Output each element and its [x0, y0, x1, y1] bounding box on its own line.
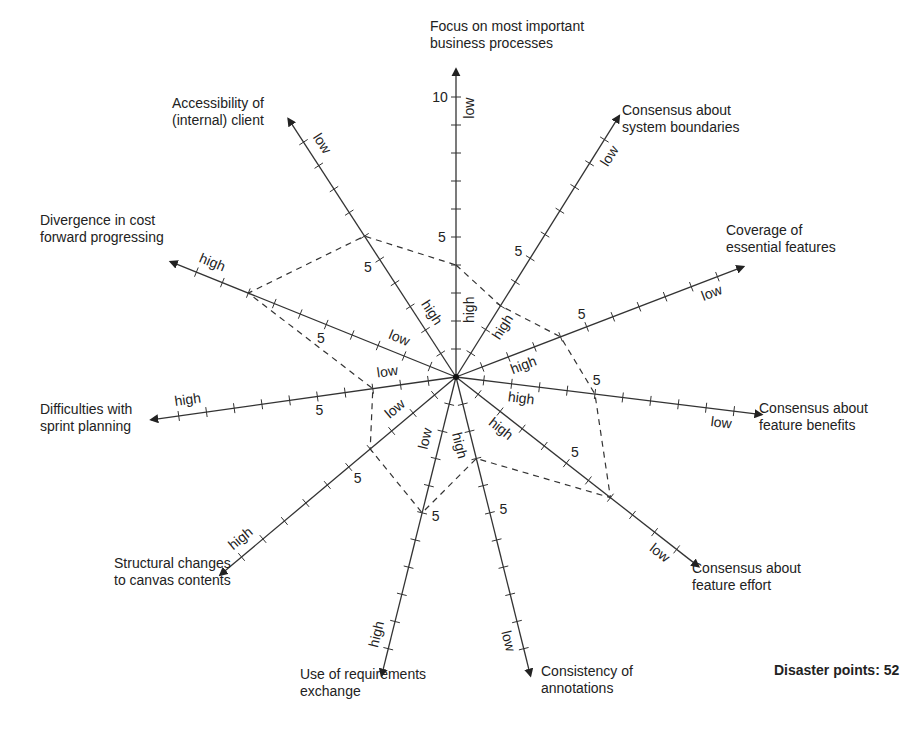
axis-label-3: Consensus about feature benefits: [759, 400, 868, 434]
axis-outer-end-label: high: [197, 250, 228, 275]
axis-inner-end-label: low: [387, 326, 413, 349]
axis-7: 5highlow: [220, 377, 456, 575]
tick-label-5: 5: [315, 402, 323, 418]
axis-inner-end-label: low: [415, 426, 436, 451]
axis-label-0: Focus on most important business process…: [430, 18, 584, 52]
radar-chart: 510lowhigh5lowhigh5lowhigh5lowhigh5lowhi…: [0, 0, 908, 736]
tick-label-5: 5: [593, 372, 601, 388]
axis-outer-end-label: low: [310, 130, 335, 157]
tick-label-5: 5: [571, 444, 579, 460]
axis-outer-end-label: low: [498, 629, 519, 654]
disaster-points-score: Disaster points: 52: [774, 662, 899, 678]
axis-4: 5lowhigh: [456, 377, 699, 567]
axis-label-10: Accessibility of (internal) client: [172, 95, 264, 129]
axis-label-7: Structural changes to canvas contents: [114, 555, 231, 589]
tick-label-5: 5: [438, 229, 446, 245]
tick-label-5: 5: [500, 501, 508, 517]
axis-outer-end-label: low: [461, 97, 477, 119]
axis-inner-end-label: high: [489, 311, 517, 342]
chart-center-dot: [453, 374, 459, 380]
tick-label-5: 5: [354, 470, 362, 486]
axis-outer-end-label: high: [365, 619, 387, 649]
axis-label-6: Use of requirements exchange: [300, 666, 426, 700]
axis-label-5: Consistency of annotations: [541, 663, 633, 697]
tick-label-10: 10: [432, 89, 448, 105]
axis-label-1: Consensus about system boundaries: [622, 102, 740, 136]
tick-label-5: 5: [364, 259, 372, 275]
axis-inner-end-label: low: [381, 395, 408, 421]
axis-inner-end-label: high: [486, 414, 517, 443]
axis-label-8: Difficulties with sprint planning: [40, 401, 132, 435]
axis-outer-end-label: low: [699, 281, 725, 304]
axis-label-4: Consensus about feature effort: [692, 560, 801, 594]
tick-label-5: 5: [317, 330, 325, 346]
axis-10: 5lowhigh: [288, 119, 456, 377]
axis-inner-end-label: high: [508, 353, 538, 377]
axis-inner-end-label: high: [418, 297, 446, 328]
axis-9: 5highlow: [170, 250, 456, 377]
axis-outer-end-label: high: [173, 389, 201, 409]
axes-layer: 510lowhigh5lowhigh5lowhigh5lowhigh5lowhi…: [151, 69, 762, 676]
axis-0: 510lowhigh: [432, 69, 476, 377]
assessment-polygon: [248, 236, 610, 513]
tick-label-5: 5: [514, 243, 522, 259]
axis-inner-end-label: high: [507, 388, 535, 407]
tick-label-5: 5: [578, 306, 586, 322]
axis-inner-end-label: high: [461, 297, 477, 323]
axis-label-2: Coverage of essential features: [726, 222, 836, 256]
axis-outer-end-label: low: [710, 413, 734, 432]
axis-inner-end-label: high: [449, 431, 471, 461]
axis-6: 5highlow: [365, 377, 456, 676]
axis-8: 5highlow: [151, 362, 456, 421]
axis-label-9: Divergence in cost forward progressing: [40, 212, 164, 246]
axis-1: 5lowhigh: [456, 116, 622, 377]
data-polygon-layer: [248, 236, 610, 513]
tick-label-5: 5: [432, 508, 440, 524]
axis-inner-end-label: low: [376, 362, 400, 381]
